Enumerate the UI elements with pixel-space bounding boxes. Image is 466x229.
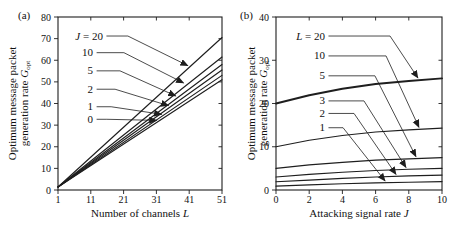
curve-j-10 bbox=[58, 57, 222, 187]
curve-j-0 bbox=[58, 80, 222, 187]
curve-label-3: 3 bbox=[319, 94, 325, 106]
leader-arrow-2 bbox=[97, 89, 169, 105]
x-tick-label: 1 bbox=[56, 194, 61, 205]
curve-l-20 bbox=[276, 78, 442, 103]
curve-j-2 bbox=[58, 70, 222, 187]
x-tick-label: 51 bbox=[217, 194, 227, 205]
two-panel-line-figure: 1112131415101020304050607080J = 20105210… bbox=[0, 0, 466, 229]
x-tick-label: 21 bbox=[119, 194, 129, 205]
y-tick-label: 40 bbox=[259, 12, 269, 23]
curve-label-10: 10 bbox=[82, 46, 94, 58]
y-axis-label-line1: Optimum message packet bbox=[245, 47, 257, 161]
y-tick-label: 60 bbox=[41, 55, 51, 66]
curve-label-j-20: J = 20 bbox=[75, 30, 103, 42]
y-tick-label: 80 bbox=[41, 12, 51, 23]
x-tick-label: 2 bbox=[307, 194, 312, 205]
x-axis-label: Number of channels L bbox=[91, 207, 189, 219]
panel-letter: (b) bbox=[240, 9, 253, 22]
curve-l-2 bbox=[276, 175, 442, 182]
y-tick-label: 0 bbox=[264, 185, 269, 196]
leader-arrow-j-20 bbox=[106, 36, 187, 66]
curve-label-l-20: L = 20 bbox=[295, 30, 325, 42]
curve-label-2: 2 bbox=[88, 83, 94, 95]
x-tick-label: 4 bbox=[340, 194, 345, 205]
chart-panel-a: 1112131415101020304050607080J = 20105210… bbox=[0, 0, 233, 229]
x-tick-label: 10 bbox=[437, 194, 447, 205]
y-axis-label-line2: generation rate Gopt bbox=[18, 61, 32, 146]
curve-l-10 bbox=[276, 128, 442, 147]
curve-l-5 bbox=[276, 158, 442, 169]
x-tick-label: 0 bbox=[274, 194, 279, 205]
y-tick-label: 30 bbox=[41, 120, 51, 131]
leader-arrow-l-20 bbox=[328, 36, 417, 78]
curve-label-10: 10 bbox=[314, 49, 326, 61]
y-tick-label: 10 bbox=[41, 163, 51, 174]
x-tick-label: 11 bbox=[86, 194, 96, 205]
x-tick-label: 6 bbox=[373, 194, 378, 205]
y-tick-label: 40 bbox=[41, 98, 51, 109]
x-tick-label: 8 bbox=[406, 194, 411, 205]
leader-arrow-5 bbox=[328, 76, 415, 157]
curve-j-5 bbox=[58, 65, 222, 187]
leader-arrow-5 bbox=[97, 71, 176, 96]
curve-label-5: 5 bbox=[319, 69, 325, 81]
curve-j-20 bbox=[58, 38, 222, 187]
y-tick-label: 50 bbox=[41, 76, 51, 87]
panel-letter: (a) bbox=[18, 9, 31, 22]
curve-label-5: 5 bbox=[88, 64, 94, 76]
x-axis-label: Attacking signal rate J bbox=[309, 207, 409, 219]
leader-arrow-3 bbox=[328, 101, 406, 168]
y-tick-label: 70 bbox=[41, 33, 51, 44]
leader-arrow-1 bbox=[97, 107, 162, 115]
curve-label-1: 1 bbox=[319, 121, 325, 133]
chart-panel-b: 0246810010203040L = 20105321Attacking si… bbox=[233, 0, 466, 229]
curve-label-1: 1 bbox=[88, 100, 94, 112]
x-tick-label: 41 bbox=[184, 194, 194, 205]
y-tick-label: 0 bbox=[46, 185, 51, 196]
y-tick-label: 20 bbox=[41, 141, 51, 152]
curve-l-1 bbox=[276, 182, 442, 187]
x-tick-label: 31 bbox=[151, 194, 161, 205]
leader-arrow-2 bbox=[328, 113, 396, 174]
curve-label-0: 0 bbox=[88, 113, 94, 125]
curve-label-2: 2 bbox=[319, 107, 325, 119]
plot-frame bbox=[276, 17, 442, 190]
y-axis-label-line1: Optimum message packet bbox=[6, 47, 18, 161]
